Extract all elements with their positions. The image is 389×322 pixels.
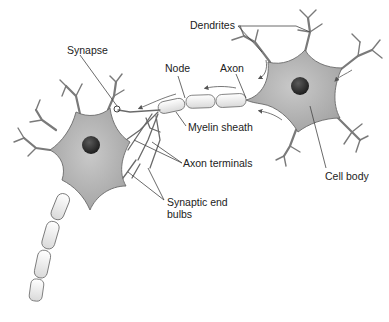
leader-dendrites [238, 26, 310, 32]
myelin-segment [40, 220, 60, 250]
leader-synaptic-end-bulbs-2 [148, 168, 164, 200]
label-node: Node [165, 62, 190, 74]
left-nucleus [82, 136, 100, 154]
label-axon-terminals: Axon terminals [183, 157, 252, 169]
label-synapse: Synapse [67, 44, 108, 56]
myelin-segment [216, 93, 247, 108]
myelin-segment [33, 249, 52, 279]
label-axon: Axon [220, 62, 244, 74]
neuron-diagram: Dendrites Synapse Node Axon Myelin sheat… [0, 0, 389, 322]
label-synaptic-end-bulbs-line2: bulbs [167, 208, 192, 220]
label-cell-body: Cell body [325, 170, 370, 182]
leader-synaptic-end-bulbs-1 [128, 172, 164, 200]
leader-synapse [80, 55, 117, 106]
leader-axon-terminals-2 [152, 142, 182, 163]
myelin-segment [186, 94, 215, 108]
myelin-segment [157, 97, 186, 114]
label-dendrites: Dendrites [190, 19, 235, 31]
descending-axon [29, 192, 72, 302]
left-neuron [14, 74, 130, 210]
myelin-segment [29, 278, 45, 302]
myelin-segment [49, 192, 71, 222]
leader-myelin-sheath [176, 112, 186, 126]
leader-node [178, 76, 185, 98]
right-nucleus [291, 77, 309, 95]
right-neuron [232, 10, 382, 166]
label-synaptic-end-bulbs-line1: Synaptic end [167, 196, 228, 208]
leader-axon-terminals-1 [134, 140, 182, 163]
synapse-marker [114, 106, 120, 112]
label-myelin-sheath: Myelin sheath [188, 121, 253, 133]
